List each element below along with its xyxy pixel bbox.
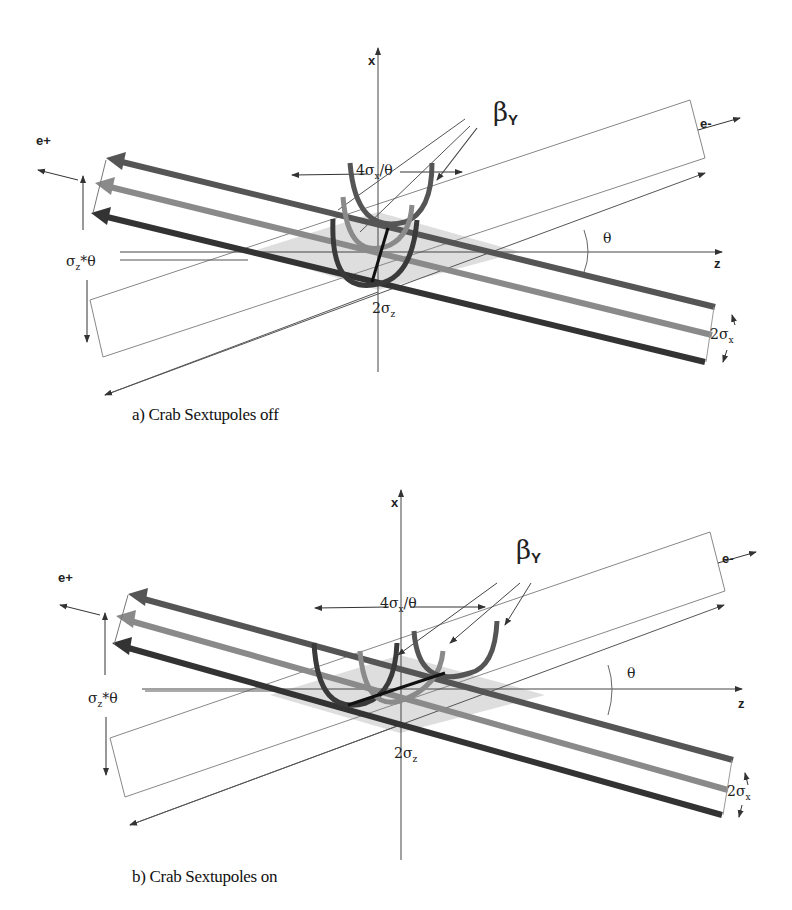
beta-y-label: βY (516, 535, 541, 566)
beta-y-label: βY (493, 97, 518, 128)
waist-spread-label: 4σx/θ (356, 162, 393, 181)
electron-label: e- (722, 551, 734, 566)
crab-on-diagram (0, 455, 792, 910)
panel-crab-sextupoles-off: x z e+ e- βY 4σx/θ σz*θ 2σz 2σx θ a) Cra… (0, 0, 792, 460)
positron-label: e+ (36, 133, 51, 148)
two-sigma-x-label: 2σx (727, 783, 751, 802)
x-axis-label: x (391, 495, 398, 510)
caption-a: a) Crab Sextupoles off (132, 405, 279, 425)
two-sigma-z-label: 2σz (372, 300, 395, 319)
z-axis-label: z (738, 696, 745, 711)
z-axis-label: z (714, 256, 721, 271)
theta-label: θ (627, 665, 635, 681)
two-sigma-x-label: 2σx (710, 326, 734, 345)
sigma-z-theta-label: σz*θ (88, 690, 118, 709)
electron-label: e- (700, 116, 712, 131)
panel-crab-sextupoles-on: x z e+ e- βY 4σx/θ σz*θ 2σz 2σx θ b) Cra… (0, 455, 792, 910)
positron-beam-mid (127, 620, 728, 790)
crab-off-diagram (0, 0, 792, 460)
waist-spread-label: 4σx/θ (380, 595, 417, 614)
x-axis-label: x (368, 53, 375, 68)
caption-b: b) Crab Sextupoles on (132, 867, 277, 887)
two-sigma-z-label: 2σz (394, 745, 417, 764)
positron-label: e+ (58, 570, 73, 585)
sigma-z-theta-label: σz*θ (66, 253, 96, 272)
theta-label: θ (603, 230, 611, 246)
